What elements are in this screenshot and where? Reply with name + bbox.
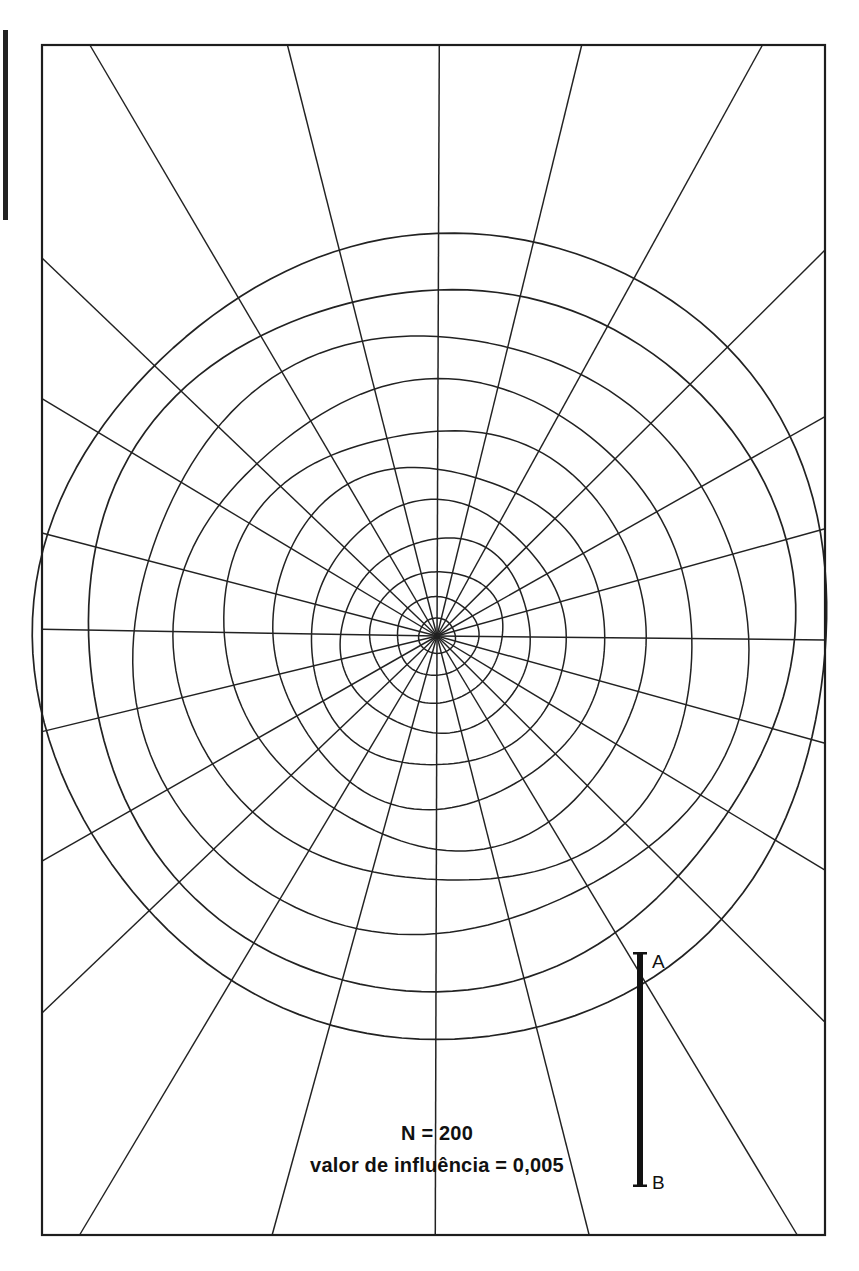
polar-grid-figure: A B N = 200 valor de influência = 0,005: [0, 0, 859, 1271]
scale-bar-bottom-cap: [633, 1185, 647, 1188]
scale-bar-label-a: A: [652, 951, 665, 972]
figure-container: A B N = 200 valor de influência = 0,005: [0, 0, 859, 1271]
sample-size-caption: N = 200: [401, 1122, 473, 1144]
page-edge-mark: [3, 30, 8, 220]
scale-bar-label-b: B: [652, 1172, 665, 1193]
scale-bar-top-cap: [633, 952, 647, 955]
scale-bar-body: [637, 952, 643, 1187]
influence-value-caption: valor de influência = 0,005: [310, 1154, 564, 1176]
